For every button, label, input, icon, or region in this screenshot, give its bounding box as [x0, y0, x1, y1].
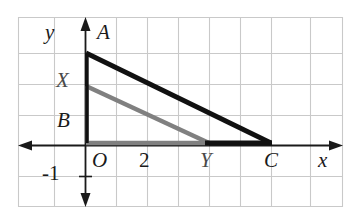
y-axis-tick-label-minus1: -1 [42, 163, 60, 184]
x-axis-arrow-right [329, 141, 343, 151]
point-label-Y: Y [200, 150, 212, 171]
x-axis-tick-label-2: 2 [139, 150, 150, 171]
point-label-A: A [97, 22, 110, 43]
y-axis-arrow-down [81, 193, 91, 207]
x-axis-label: x [318, 150, 327, 171]
point-label-B: B [57, 110, 70, 131]
point-label-X: X [56, 70, 69, 91]
y-axis-label: y [45, 22, 54, 43]
y-axis-arrow-up [81, 17, 91, 31]
coordinate-figure: y A X B O 2 Y C x -1 [0, 0, 359, 223]
x-axis-arrow-left [18, 141, 32, 151]
origin-label-O: O [92, 150, 107, 171]
point-label-C: C [264, 150, 278, 171]
